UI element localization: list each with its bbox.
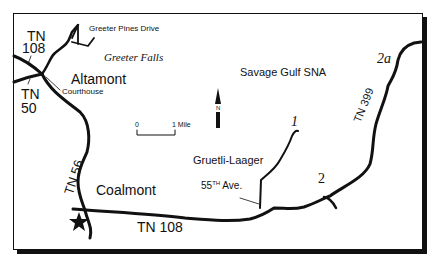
label-tn108-bottom: TN 108	[137, 220, 183, 234]
road-tn56	[42, 74, 91, 238]
label-trailhead-2: 2	[318, 172, 325, 186]
leader-55th	[240, 198, 259, 204]
map-roads	[0, 0, 436, 267]
road-tn108-north	[14, 56, 42, 74]
label-trailhead-2a: 2a	[377, 52, 391, 66]
scale-bar	[137, 130, 175, 135]
leader-tn50	[28, 79, 30, 84]
road-gruetli	[260, 131, 298, 208]
label-north: N	[216, 105, 220, 111]
road-greeter	[42, 25, 78, 74]
label-trailhead-1: 1	[291, 115, 298, 129]
label-scale-zero: 0	[135, 121, 139, 128]
label-courthouse: Courthouse	[62, 88, 103, 96]
label-55th-suffix: Ave.	[220, 180, 242, 191]
label-55th-number: 55	[201, 180, 212, 191]
label-55th-ave: 55TH Ave.	[201, 180, 242, 191]
label-savage-gulf: Savage Gulf SNA	[240, 67, 326, 78]
label-altamont: Altamont	[71, 72, 126, 86]
label-tn50-num: 50	[21, 101, 37, 115]
label-greeter-pines-drive: Greeter Pines Drive	[89, 25, 159, 33]
label-scale-one-mile: 1 Mile	[172, 121, 191, 128]
label-55th-sup: TH	[212, 180, 220, 186]
label-tn50-prefix: TN	[21, 87, 40, 101]
road-trailhead-2-spur	[324, 197, 336, 208]
label-coalmont: Coalmont	[96, 183, 156, 197]
road-tn50	[14, 74, 42, 82]
label-tn108-top-num: 108	[22, 41, 45, 55]
label-greeter-falls: Greeter Falls	[104, 52, 163, 63]
label-gruetli-laager: Gruetli-Laager	[193, 155, 263, 166]
